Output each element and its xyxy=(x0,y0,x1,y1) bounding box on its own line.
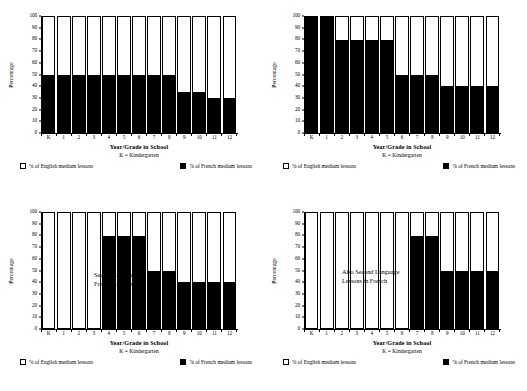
bar-fill-french xyxy=(306,17,318,132)
bar-6 xyxy=(395,212,409,329)
bar-fill-french xyxy=(148,271,160,329)
bar-fill-french xyxy=(208,282,220,328)
legend-label-french: % of French medium lessons xyxy=(452,163,515,169)
x-tick-label: 1 xyxy=(319,135,334,140)
bar-K xyxy=(42,212,56,329)
x-tick-label: 4 xyxy=(101,331,116,336)
bar-outline-english xyxy=(410,212,424,329)
bar-fill-french xyxy=(43,75,55,133)
x-tick-labels: K123456789101112 xyxy=(304,135,500,140)
legend-item-english: % of English medium lessons xyxy=(283,163,356,169)
x-tick-label: 1 xyxy=(56,331,71,336)
bar-7 xyxy=(410,212,424,329)
bar-fill-french xyxy=(148,75,160,133)
x-tick-label: 12 xyxy=(222,331,237,336)
x-tick-label: 6 xyxy=(131,135,146,140)
legend-swatch-english-icon xyxy=(20,359,26,365)
x-tick-label: 11 xyxy=(470,135,485,140)
bar-outline-english xyxy=(207,16,221,133)
bar-8 xyxy=(425,16,439,133)
bar-series xyxy=(41,212,237,329)
bar-10 xyxy=(455,212,469,329)
bar-fill-french xyxy=(471,86,483,132)
bar-5 xyxy=(117,212,131,329)
bar-outline-english xyxy=(162,16,176,133)
bar-1 xyxy=(320,212,334,329)
legend-item-english: % of English medium lessons xyxy=(20,163,93,169)
bar-fill-french xyxy=(456,271,468,329)
x-tick-labels: K123456789101112 xyxy=(41,135,237,140)
chart-panel-top-right: Percentage 0102030405060708090100 K12345… xyxy=(263,0,527,196)
bar-12 xyxy=(486,16,500,133)
legend: % of English medium lessons % of French … xyxy=(283,359,515,365)
x-tick-label: 12 xyxy=(485,331,500,336)
x-axis-label: Year/Grade in School xyxy=(304,339,500,346)
bar-fill-french xyxy=(193,282,205,328)
legend-label-french: % of French medium lessons xyxy=(189,359,252,365)
bar-series xyxy=(41,16,237,133)
bar-fill-french xyxy=(224,98,236,133)
bar-outline-english xyxy=(365,16,379,133)
x-tick-label: 11 xyxy=(207,331,222,336)
bar-fill-french xyxy=(426,236,438,328)
bar-8 xyxy=(425,212,439,329)
x-tick-label: 8 xyxy=(162,331,177,336)
bar-outline-english xyxy=(147,16,161,133)
bar-K xyxy=(305,212,319,329)
x-tick-label: 7 xyxy=(147,331,162,336)
x-tick-label: 3 xyxy=(349,331,364,336)
bar-fill-french xyxy=(441,271,453,329)
chart-panel-bottom-left: Percentage 0102030405060708090100 Second… xyxy=(0,196,263,391)
bar-3 xyxy=(87,212,101,329)
legend-label-french: % of French medium lessons xyxy=(189,163,252,169)
x-tick-label: 12 xyxy=(485,135,500,140)
chart-grid: Percentage 0102030405060708090100 K12345… xyxy=(0,0,527,391)
y-axis-label: Percentage xyxy=(269,16,279,133)
bar-outline-english xyxy=(455,212,469,329)
bar-fill-french xyxy=(351,40,363,132)
x-tick-label: 6 xyxy=(394,331,409,336)
x-tick-label: 4 xyxy=(101,135,116,140)
bar-outline-english xyxy=(87,212,101,329)
bar-K xyxy=(305,16,319,133)
bar-series xyxy=(304,212,500,329)
bar-1 xyxy=(57,212,71,329)
bar-outline-english xyxy=(320,16,334,133)
bar-5 xyxy=(117,16,131,133)
x-tick-label: 6 xyxy=(394,135,409,140)
x-tick-label: K xyxy=(41,331,56,336)
legend-label-english: % of English medium lessons xyxy=(292,359,356,365)
x-tick-label: 2 xyxy=(71,135,86,140)
bar-fill-french xyxy=(456,86,468,132)
bar-5 xyxy=(380,16,394,133)
x-tick-label: K xyxy=(304,331,319,336)
bar-outline-english xyxy=(470,212,484,329)
bar-1 xyxy=(57,16,71,133)
bar-11 xyxy=(470,16,484,133)
x-tick-label: 7 xyxy=(410,135,425,140)
bar-fill-french xyxy=(411,236,423,328)
bar-fill-french xyxy=(193,92,205,132)
bar-2 xyxy=(72,16,86,133)
x-tick-label: 10 xyxy=(192,331,207,336)
bar-11 xyxy=(207,212,221,329)
x-tick-label: 3 xyxy=(349,135,364,140)
bar-fill-french xyxy=(396,75,408,133)
bar-outline-english xyxy=(72,16,86,133)
bar-fill-french xyxy=(381,40,393,132)
x-tick-label: 6 xyxy=(131,331,146,336)
bar-fill-french xyxy=(88,75,100,133)
x-tick-label: 10 xyxy=(455,135,470,140)
bar-outline-english xyxy=(162,212,176,329)
bar-outline-english xyxy=(87,16,101,133)
bar-fill-french xyxy=(133,236,145,328)
chart-panel-bottom-right: Percentage 0102030405060708090100 Also S… xyxy=(263,196,527,391)
bar-fill-french xyxy=(73,75,85,133)
bar-6 xyxy=(132,212,146,329)
bar-fill-french xyxy=(163,271,175,329)
bar-outline-english xyxy=(42,212,56,329)
plot-area: 0102030405060708090100 xyxy=(304,16,500,133)
legend: % of English medium lessons % of French … xyxy=(283,163,515,169)
bar-series xyxy=(304,16,500,133)
x-tick-label: 1 xyxy=(56,135,71,140)
